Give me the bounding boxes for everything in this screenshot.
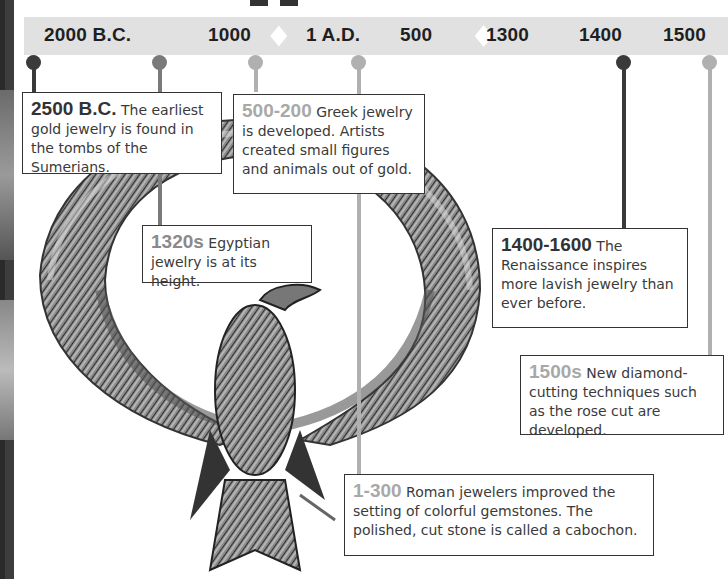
timeline-dot-1400-1600 <box>616 55 631 70</box>
timeline-tick: 1000 <box>208 24 251 46</box>
timeline-dot-1-300 <box>351 55 366 70</box>
timeline-dot-1500s <box>702 55 717 70</box>
event-year: 1320s <box>151 231 204 252</box>
timeline-tick: 500 <box>400 24 432 46</box>
timeline-dot-1320s <box>152 55 167 70</box>
timeline-band-early-ad <box>272 17 490 55</box>
event-card-1320s: 1320s Egyptian jewelry is at its height. <box>142 225 312 283</box>
event-year: 2500 B.C. <box>31 98 117 119</box>
event-year: 1-300 <box>353 480 402 501</box>
edge-gradient <box>0 300 14 440</box>
timeline-dot-2500bc <box>26 55 41 70</box>
timeline-tick: 1300 <box>486 24 529 46</box>
event-card-1400-1600: 1400-1600 The Renaissance inspires more … <box>492 228 688 328</box>
event-card-1-300: 1-300 Roman jewelers improved the settin… <box>344 474 654 556</box>
edge-line <box>0 0 5 579</box>
page-edge-strip <box>0 0 14 579</box>
edge-gradient <box>0 90 14 260</box>
title-fragment <box>250 0 310 6</box>
stem-2500bc <box>32 68 36 92</box>
timeline-tick: 2000 B.C. <box>44 24 131 46</box>
stem-500-200 <box>254 68 258 92</box>
event-card-1500s: 1500s New diamond-cutting techniques suc… <box>520 355 724 435</box>
timeline-tick: 1 A.D. <box>306 24 360 46</box>
timeline-tick: 1400 <box>579 24 622 46</box>
event-year: 1500s <box>529 361 582 382</box>
timeline-dot-500-200 <box>248 55 263 70</box>
event-year: 500-200 <box>242 100 312 121</box>
stem-1500s <box>708 68 712 358</box>
event-card-500-200: 500-200 Greek jewelry is developed. Arti… <box>233 94 425 194</box>
stem-1400-1600 <box>622 68 626 228</box>
timeline-tick: 1500 <box>663 24 706 46</box>
event-card-2500bc: 2500 B.C. The earliest gold jewelry is f… <box>22 92 222 174</box>
event-year: 1400-1600 <box>501 234 592 255</box>
